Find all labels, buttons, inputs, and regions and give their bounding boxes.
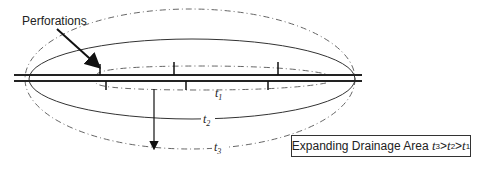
legend-prefix: Expanding Drainage Area bbox=[292, 139, 429, 153]
perforations-label: Perforations bbox=[22, 14, 87, 28]
contour-t3 bbox=[25, 9, 355, 149]
label-t1: t1 bbox=[215, 86, 222, 102]
contour-t1 bbox=[96, 66, 326, 90]
contour-t2 bbox=[29, 39, 355, 119]
legend-box: Expanding Drainage Area t3 > t2 > t1 bbox=[291, 135, 471, 157]
